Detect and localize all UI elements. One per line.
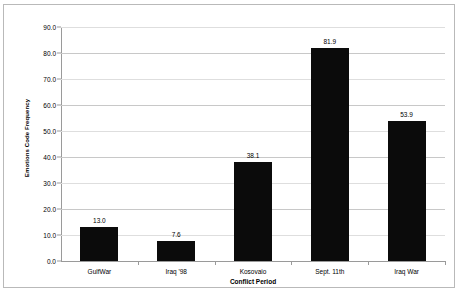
x-tick-mark [368, 261, 369, 265]
y-tick-label: 10.0 [43, 232, 56, 239]
bar-slot: 13.0 [61, 27, 138, 261]
y-tick-label: 20.0 [43, 206, 56, 213]
x-axis-title: Conflict Period [61, 278, 445, 285]
bar-value-label: 53.9 [400, 111, 413, 118]
y-axis-title: Emotions Code Frequency [24, 68, 30, 208]
y-tick-label: 50.0 [43, 128, 56, 135]
y-tick-label: 70.0 [43, 76, 56, 83]
bar-chart-figure: Emotions Code Frequency 90.080.070.060.0… [0, 0, 460, 296]
x-tick-label: Iraq War [394, 268, 419, 275]
x-tick-label: GulfWar [88, 268, 112, 275]
y-tick-label: 60.0 [43, 102, 56, 109]
bar[interactable] [388, 121, 426, 261]
plot-area: 90.080.070.060.050.040.030.020.010.00.0 … [61, 27, 445, 261]
y-tick-label: 0.0 [47, 258, 56, 265]
chart-frame: Emotions Code Frequency 90.080.070.060.0… [3, 4, 455, 288]
bar-slot: 81.9 [291, 27, 368, 261]
x-tick-mark [445, 261, 446, 265]
bar-slot: 53.9 [368, 27, 445, 261]
bar-slot: 38.1 [215, 27, 292, 261]
bar[interactable] [157, 241, 195, 261]
y-tick-label: 90.0 [43, 24, 56, 31]
y-tick-label: 80.0 [43, 50, 56, 57]
x-tick-label: Kosovaio [240, 268, 267, 275]
x-axis-line [61, 261, 445, 262]
bar-value-label: 38.1 [247, 152, 260, 159]
y-tick-label: 30.0 [43, 180, 56, 187]
bar[interactable] [311, 48, 349, 261]
bar-value-label: 7.6 [172, 231, 181, 238]
x-tick-mark [215, 261, 216, 265]
y-tick-label: 40.0 [43, 154, 56, 161]
bar-value-label: 13.0 [93, 217, 106, 224]
x-tick-label: Sept. 11th [315, 268, 344, 275]
x-tick-label: Iraq '98 [165, 268, 186, 275]
bar-value-label: 81.9 [323, 38, 336, 45]
bar[interactable] [80, 227, 118, 261]
x-tick-mark [291, 261, 292, 265]
bar[interactable] [234, 162, 272, 261]
bar-slot: 7.6 [138, 27, 215, 261]
x-tick-mark [138, 261, 139, 265]
